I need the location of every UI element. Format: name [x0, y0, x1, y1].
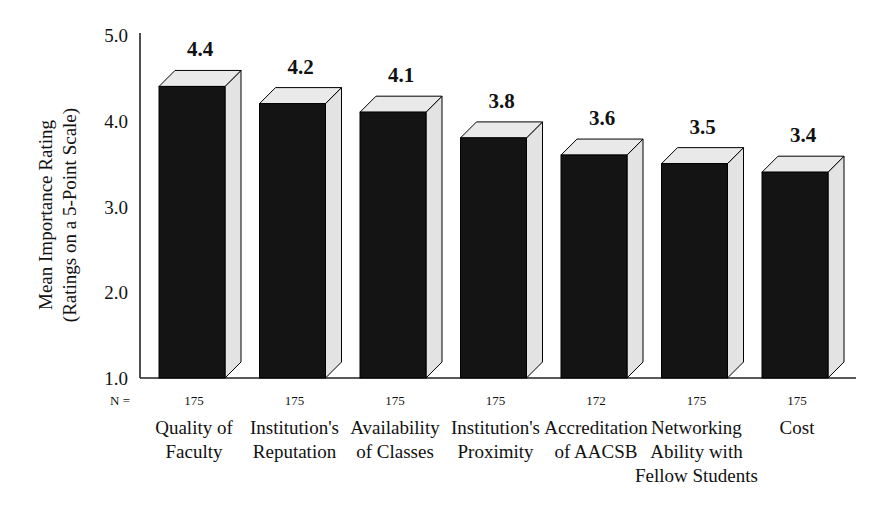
category-label: Quality of	[155, 417, 233, 438]
category-label: Accreditation	[544, 417, 648, 438]
bar-value-label: 3.6	[589, 106, 615, 130]
n-equals-label: N =	[110, 393, 130, 408]
bar-group	[260, 88, 342, 378]
bar-front-face	[561, 155, 627, 378]
y-axis-tick-label: 4.0	[104, 111, 128, 132]
category-label: Networking	[651, 417, 742, 438]
y-axis-tick-label: 3.0	[104, 197, 128, 218]
bar-group	[360, 96, 442, 378]
sample-size-value: 175	[687, 393, 707, 408]
bar-side-face	[426, 96, 442, 378]
bar-front-face	[762, 172, 828, 378]
bar-front-face	[662, 164, 728, 378]
bar-series	[159, 70, 844, 378]
category-label: Ability with	[650, 441, 743, 462]
sample-size-value: 175	[787, 393, 807, 408]
bar-value-label: 4.1	[388, 63, 414, 87]
category-label: Cost	[780, 417, 816, 438]
category-labels: Quality ofFacultyInstitution'sReputation…	[155, 417, 815, 486]
y-axis-tick-label: 2.0	[104, 282, 128, 303]
y-axis-tick-labels: 5.04.03.02.01.0	[104, 25, 128, 389]
sample-size-values: 175175175175172175175	[184, 393, 807, 408]
category-label: Reputation	[253, 441, 337, 462]
bar-front-face	[159, 86, 225, 378]
bar-side-face	[326, 88, 342, 378]
bar-side-face	[627, 139, 643, 378]
sample-size-value: 175	[184, 393, 204, 408]
bar-side-face	[527, 122, 543, 378]
y-axis-title-line-1: Mean Importance Rating	[35, 120, 56, 310]
sample-size-value: 175	[385, 393, 405, 408]
bar-chart-figure: Mean Importance Rating (Ratings on a 5-P…	[0, 0, 883, 508]
bar-front-face	[260, 104, 326, 378]
bar-value-label: 4.2	[287, 55, 313, 79]
bar-value-label: 3.4	[790, 123, 817, 147]
bar-group	[159, 70, 241, 378]
category-label: of AACSB	[555, 441, 638, 462]
category-label: of Classes	[356, 441, 434, 462]
bar-group	[762, 156, 844, 378]
category-label: Fellow Students	[635, 465, 758, 486]
sample-size-value: 175	[486, 393, 506, 408]
sample-size-value: 172	[586, 393, 606, 408]
bar-group	[461, 122, 543, 378]
bar-side-face	[225, 70, 241, 378]
category-label: Institution's	[250, 417, 339, 438]
bar-value-label: 3.5	[689, 115, 715, 139]
y-axis-tick-label: 1.0	[104, 368, 128, 389]
bar-side-face	[728, 148, 744, 378]
category-label: Proximity	[457, 441, 534, 462]
bar-group	[561, 139, 643, 378]
category-label: Faculty	[166, 441, 223, 462]
bar-value-label: 4.4	[187, 37, 214, 61]
sample-size-value: 175	[285, 393, 305, 408]
bar-front-face	[360, 112, 426, 378]
y-axis-title-line-2: (Ratings on a 5-Point Scale)	[59, 108, 81, 322]
bar-side-face	[828, 156, 844, 378]
y-axis-tick-label: 5.0	[104, 25, 128, 46]
bar-group	[662, 148, 744, 378]
category-label: Availability	[350, 417, 440, 438]
chart-canvas: Mean Importance Rating (Ratings on a 5-P…	[0, 0, 883, 508]
y-axis-title-group: Mean Importance Rating (Ratings on a 5-P…	[35, 108, 81, 322]
category-label: Institution's	[451, 417, 540, 438]
bar-front-face	[461, 138, 527, 378]
bar-value-label: 3.8	[488, 89, 514, 113]
